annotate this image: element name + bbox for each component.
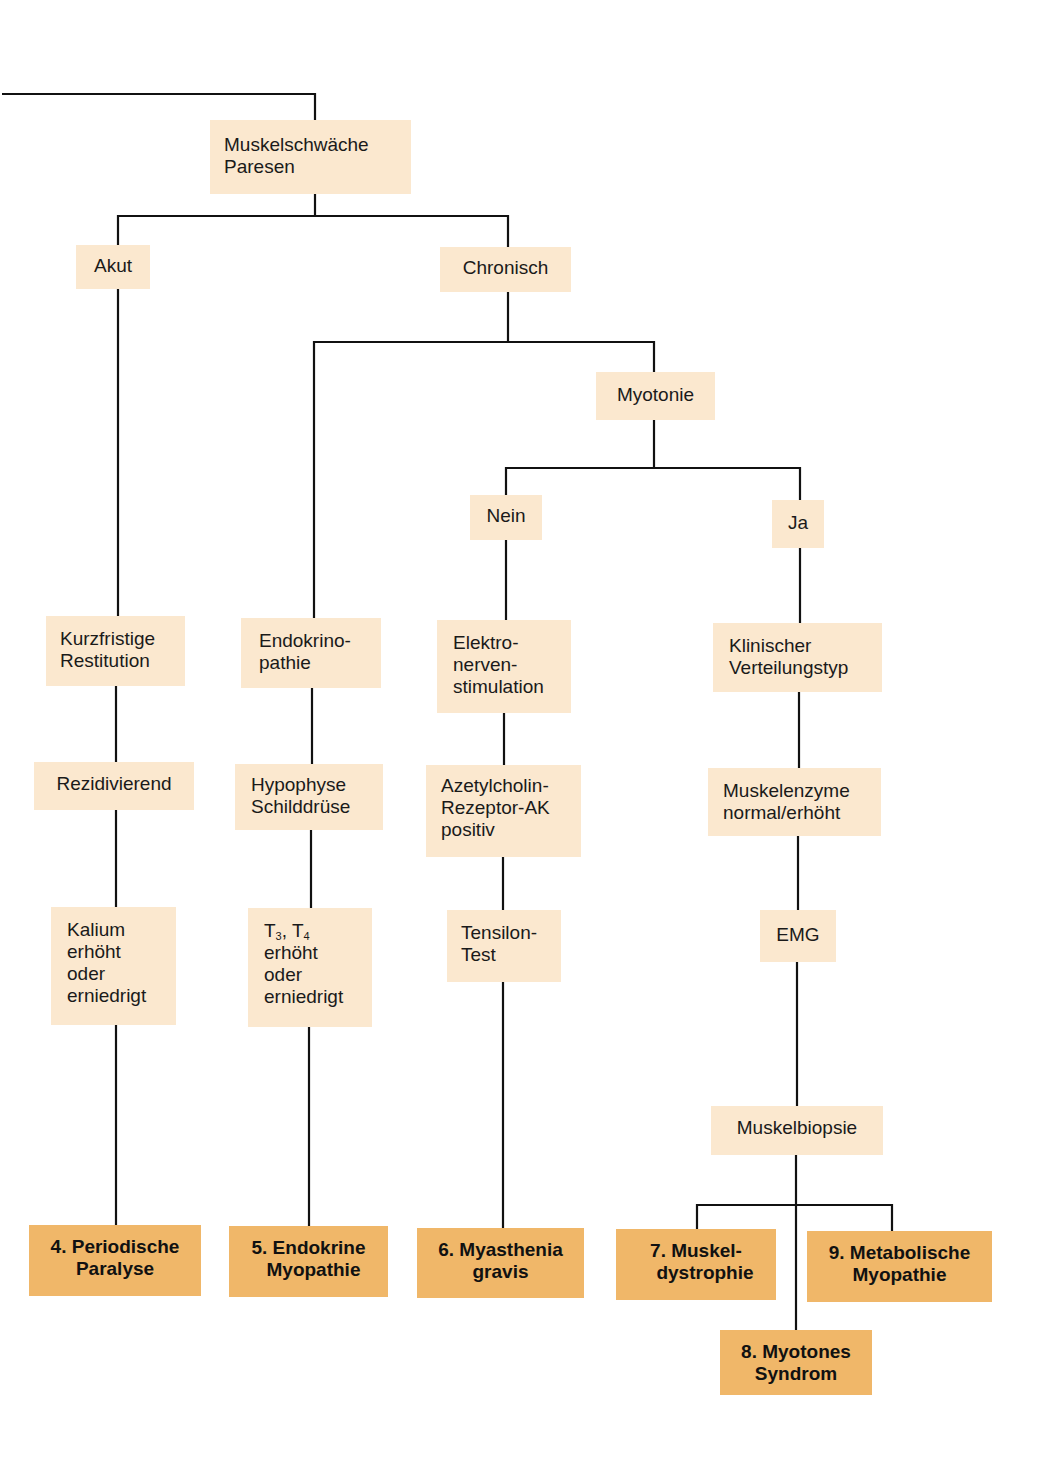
node-text: Nein xyxy=(484,505,528,527)
node-klinischer-verteilungstyp: Klinischer Verteilungstyp xyxy=(713,623,882,692)
node-tensilon-test: Tensilon- Test xyxy=(447,910,561,982)
result-text: dystrophie xyxy=(624,1262,768,1284)
node-text: oder xyxy=(67,963,162,985)
result-text: 6. Myasthenia xyxy=(425,1239,576,1261)
result-text: 4. Periodische xyxy=(37,1236,193,1258)
node-text: EMG xyxy=(774,924,822,946)
result-text: Myopathie xyxy=(815,1264,984,1286)
node-kalium: Kalium erhöht oder erniedrigt xyxy=(51,907,176,1025)
node-text: pathie xyxy=(259,652,367,674)
node-chronisch: Chronisch xyxy=(440,247,571,292)
node-emg: EMG xyxy=(760,910,836,962)
node-text: Restitution xyxy=(60,650,171,672)
node-endokrinopathie: Endokrino- pathie xyxy=(241,618,381,688)
node-text: Hypophyse xyxy=(251,774,369,796)
result-text: 5. Endokrine xyxy=(237,1237,380,1259)
node-text: Tensilon- xyxy=(461,922,547,944)
node-text: erhöht xyxy=(67,941,162,963)
node-text: Schilddrüse xyxy=(251,796,369,818)
result-text: 9. Metabolische xyxy=(815,1242,984,1264)
result-text: gravis xyxy=(425,1261,576,1283)
node-myotonie: Myotonie xyxy=(596,372,715,420)
node-text: Myotonie xyxy=(610,384,701,406)
node-hypophyse-schilddruese: Hypophyse Schilddrüse xyxy=(235,764,383,830)
node-text: Akut xyxy=(90,255,136,277)
node-text: Verteilungstyp xyxy=(729,657,868,679)
node-muskelenzyme: Muskelenzyme normal/erhöht xyxy=(708,768,881,836)
node-text: Rezeptor-AK xyxy=(441,797,567,819)
node-text: Test xyxy=(461,944,547,966)
node-ja: Ja xyxy=(772,500,824,548)
node-elektronervenstimulation: Elektro- nerven- stimulation xyxy=(437,620,571,713)
node-text: positiv xyxy=(441,819,567,841)
result-text: Syndrom xyxy=(728,1363,864,1385)
t3-t4-label: T3, T4 xyxy=(264,920,358,942)
node-text: Paresen xyxy=(224,156,397,178)
node-text: Ja xyxy=(776,512,820,534)
node-text: erhöht xyxy=(264,942,358,964)
node-text: Endokrino- xyxy=(259,630,367,652)
node-text: Azetylcholin- xyxy=(441,775,567,797)
node-text: Chronisch xyxy=(454,257,557,279)
result-text: Myopathie xyxy=(237,1259,380,1281)
node-text: nerven- xyxy=(453,654,557,676)
node-kurzfristige-restitution: Kurzfristige Restitution xyxy=(46,616,185,686)
node-muskelschwaeche-paresen: Muskelschwäche Paresen xyxy=(210,120,411,194)
node-text: Muskelschwäche xyxy=(224,134,397,156)
node-text: Klinischer xyxy=(729,635,868,657)
node-text: oder xyxy=(264,964,358,986)
node-rezidivierend: Rezidivierend xyxy=(34,762,194,810)
node-muskelbiopsie: Muskelbiopsie xyxy=(711,1106,883,1155)
node-nein: Nein xyxy=(470,495,542,540)
result-text: 7. Muskel- xyxy=(624,1240,768,1262)
node-text: Elektro- xyxy=(453,632,557,654)
result-metabolische-myopathie: 9. Metabolische Myopathie xyxy=(807,1231,992,1302)
result-text: 8. Myotones xyxy=(728,1341,864,1363)
result-text: Paralyse xyxy=(37,1258,193,1280)
node-text: stimulation xyxy=(453,676,557,698)
node-text: Muskelbiopsie xyxy=(725,1117,869,1139)
result-myasthenia-gravis: 6. Myasthenia gravis xyxy=(417,1228,584,1298)
node-t3-t4: T3, T4 erhöht oder erniedrigt xyxy=(248,908,372,1027)
node-text: Kalium xyxy=(67,919,162,941)
result-endokrine-myopathie: 5. Endokrine Myopathie xyxy=(229,1226,388,1297)
node-azetylcholin-rezeptor-ak: Azetylcholin- Rezeptor-AK positiv xyxy=(426,765,581,857)
flowchart-canvas: Muskelschwäche Paresen Akut Chronisch My… xyxy=(0,0,1045,1458)
node-text: Rezidivierend xyxy=(48,773,180,795)
node-text: normal/erhöht xyxy=(723,802,867,824)
node-text: erniedrigt xyxy=(67,985,162,1007)
result-myotones-syndrom: 8. Myotones Syndrom xyxy=(720,1330,872,1395)
node-akut: Akut xyxy=(76,245,150,289)
result-muskeldystrophie: 7. Muskel- dystrophie xyxy=(616,1229,776,1300)
node-text: Muskelenzyme xyxy=(723,780,867,802)
incoming-connector xyxy=(2,94,315,120)
result-periodische-paralyse: 4. Periodische Paralyse xyxy=(29,1225,201,1296)
node-text: erniedrigt xyxy=(264,986,358,1008)
node-text: Kurzfristige xyxy=(60,628,171,650)
